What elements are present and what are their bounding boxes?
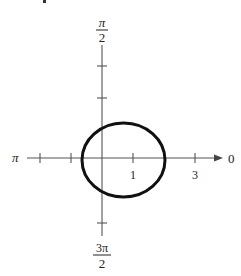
angle-label-pi-over-2-numerator: π	[99, 15, 106, 30]
radial-tick-label-1: 1	[130, 168, 136, 182]
cropped-header-fragment	[43, 0, 46, 3]
arrow-head-icon	[214, 155, 223, 162]
polar-graph: π 0 π 2 3π 2 1 3	[0, 0, 241, 276]
angle-label-pi: π	[12, 150, 19, 165]
polar-curve-ellipse	[82, 123, 165, 197]
radial-tick-label-3: 3	[192, 168, 198, 182]
angle-label-pi-over-2-denominator: 2	[99, 30, 106, 45]
angle-label-3pi-over-2-denominator: 2	[99, 256, 106, 271]
angle-label-zero: 0	[228, 151, 235, 166]
angle-label-3pi-over-2-numerator: 3π	[96, 241, 108, 255]
